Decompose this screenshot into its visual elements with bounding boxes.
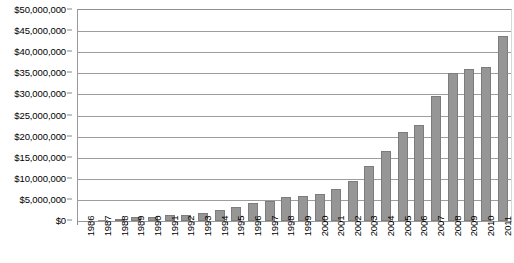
x-label-slot: 2004 — [377, 226, 394, 263]
bars-series — [78, 10, 511, 221]
bar-slot — [444, 10, 461, 221]
bar-slot — [178, 10, 195, 221]
x-label-slot: 1993 — [194, 226, 211, 263]
y-tick-label: $45,000,000 — [14, 25, 66, 36]
bar-slot — [145, 10, 162, 221]
bar-slot — [95, 10, 112, 221]
x-label-slot: 2008 — [443, 226, 460, 263]
x-label-slot: 1990 — [144, 226, 161, 263]
bar-slot — [345, 10, 362, 221]
bar-slot — [494, 10, 511, 221]
x-label-slot: 1989 — [127, 226, 144, 263]
bar — [414, 125, 424, 221]
x-label-slot: 1995 — [227, 226, 244, 263]
x-axis: 1986198719881989199019911992199319941995… — [77, 221, 512, 263]
y-axis: $0$5,000,000$10,000,000$15,000,000$20,00… — [0, 0, 72, 226]
bar — [364, 166, 374, 221]
x-label-slot: 2009 — [460, 226, 477, 263]
y-tick-mark — [67, 93, 72, 94]
bar-slot — [228, 10, 245, 221]
y-tick-label: $5,000,000 — [19, 193, 66, 204]
bar-slot — [295, 10, 312, 221]
x-label-slot: 1996 — [244, 226, 261, 263]
y-tick-label: $20,000,000 — [14, 130, 66, 141]
bar-slot — [361, 10, 378, 221]
bar-slot — [195, 10, 212, 221]
bar-slot — [278, 10, 295, 221]
x-label-slot: 1994 — [210, 226, 227, 263]
bar-slot — [161, 10, 178, 221]
y-tick-label: $25,000,000 — [14, 109, 66, 120]
y-tick-mark — [67, 9, 72, 10]
bar-slot — [478, 10, 495, 221]
y-tick-mark — [67, 51, 72, 52]
y-tick-mark — [67, 30, 72, 31]
bar-slot — [211, 10, 228, 221]
x-label-slot: 2010 — [477, 226, 494, 263]
x-label-slot: 1999 — [294, 226, 311, 263]
x-label-slot: 2011 — [493, 226, 510, 263]
bar — [464, 69, 474, 221]
y-tick-mark — [67, 198, 72, 199]
y-tick-mark — [67, 177, 72, 178]
x-label-slot: 1991 — [160, 226, 177, 263]
y-tick-mark — [67, 156, 72, 157]
bar — [481, 67, 491, 221]
bar — [431, 96, 441, 221]
y-tick-label: $0 — [56, 215, 66, 226]
y-tick-label: $35,000,000 — [14, 67, 66, 78]
x-axis-labels: 1986198719881989199019911992199319941995… — [77, 226, 510, 263]
bar-slot — [394, 10, 411, 221]
x-tick-label: 2011 — [502, 216, 513, 236]
y-tick-label: $40,000,000 — [14, 46, 66, 57]
x-label-slot: 1992 — [177, 226, 194, 263]
bar — [448, 73, 458, 221]
bar — [398, 132, 408, 221]
x-label-slot: 1986 — [77, 226, 94, 263]
bar-slot — [328, 10, 345, 221]
bar-slot — [111, 10, 128, 221]
x-label-slot: 2005 — [393, 226, 410, 263]
x-label-slot: 2007 — [427, 226, 444, 263]
x-label-slot: 1998 — [277, 226, 294, 263]
y-tick-mark — [67, 135, 72, 136]
plot-area — [77, 9, 512, 222]
bar-slot — [128, 10, 145, 221]
bar — [498, 36, 508, 221]
x-tick-mark — [77, 221, 78, 225]
bar-slot — [428, 10, 445, 221]
x-label-slot: 2002 — [344, 226, 361, 263]
bar-slot — [461, 10, 478, 221]
bar — [381, 151, 391, 221]
x-label-slot: 1997 — [260, 226, 277, 263]
y-tick-mark — [67, 72, 72, 73]
x-label-slot: 2006 — [410, 226, 427, 263]
bar-slot — [261, 10, 278, 221]
bar-slot — [411, 10, 428, 221]
bar-slot — [245, 10, 262, 221]
x-label-slot: 2003 — [360, 226, 377, 263]
bar-slot — [378, 10, 395, 221]
x-label-slot: 1988 — [110, 226, 127, 263]
bar-slot — [311, 10, 328, 221]
y-tick-label: $15,000,000 — [14, 151, 66, 162]
x-label-slot: 2001 — [327, 226, 344, 263]
y-tick-label: $10,000,000 — [14, 172, 66, 183]
y-tick-mark — [67, 220, 72, 221]
x-label-slot: 2000 — [310, 226, 327, 263]
y-tick-label: $50,000,000 — [14, 4, 66, 15]
y-tick-label: $30,000,000 — [14, 88, 66, 99]
y-tick-mark — [67, 114, 72, 115]
bar-chart: $0$5,000,000$10,000,000$15,000,000$20,00… — [0, 0, 514, 263]
bar-slot — [78, 10, 95, 221]
x-label-slot: 1987 — [94, 226, 111, 263]
